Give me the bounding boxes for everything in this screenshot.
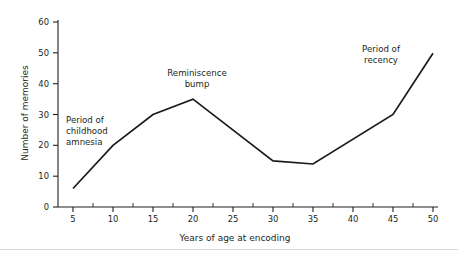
x-tick-label-25: 25 bbox=[228, 214, 239, 224]
annotation-childhood-amnesia-line1: Period of bbox=[66, 115, 105, 125]
annotation-period-of-childhood-amnesia: Period of childhood amnesia bbox=[66, 115, 108, 147]
x-tick-label-20: 20 bbox=[188, 214, 199, 224]
x-tick-label-15: 15 bbox=[148, 214, 159, 224]
annotation-childhood-amnesia-line3: amnesia bbox=[66, 137, 103, 147]
annotation-reminiscence-bump-line2: bump bbox=[185, 79, 210, 89]
x-tick-label-45: 45 bbox=[388, 214, 399, 224]
x-axis-major-ticks bbox=[73, 207, 433, 212]
y-axis-tick-labels: 0 10 20 30 40 50 60 bbox=[38, 17, 49, 212]
x-axis-minor-ticks bbox=[93, 203, 413, 207]
x-axis-title: Years of age at encoding bbox=[179, 233, 291, 243]
annotation-period-of-recency: Period of recency bbox=[362, 44, 401, 65]
annotation-reminiscence-bump: Reminiscence bump bbox=[167, 68, 226, 89]
annotation-recency-line2: recency bbox=[364, 55, 398, 65]
y-axis-ticks bbox=[53, 22, 58, 207]
y-tick-label-40: 40 bbox=[38, 79, 49, 89]
x-tick-label-5: 5 bbox=[70, 214, 75, 224]
y-tick-label-60: 60 bbox=[38, 17, 49, 27]
x-tick-label-30: 30 bbox=[268, 214, 279, 224]
chart-figure: 0 10 20 30 40 50 60 bbox=[0, 0, 458, 256]
y-tick-label-0: 0 bbox=[44, 202, 49, 212]
annotation-childhood-amnesia-line2: childhood bbox=[66, 126, 108, 136]
y-tick-label-50: 50 bbox=[38, 48, 49, 58]
x-tick-label-10: 10 bbox=[108, 214, 119, 224]
x-axis-tick-labels: 5 10 15 20 25 30 35 40 45 50 bbox=[70, 214, 438, 224]
annotation-recency-line1: Period of bbox=[362, 44, 401, 54]
memory-distribution-line-chart: 0 10 20 30 40 50 60 bbox=[0, 0, 458, 256]
y-axis-title: Number of memories bbox=[20, 65, 30, 161]
x-tick-label-40: 40 bbox=[348, 214, 359, 224]
y-tick-label-30: 30 bbox=[38, 110, 49, 120]
y-tick-label-20: 20 bbox=[38, 140, 49, 150]
bottom-divider bbox=[0, 249, 458, 250]
x-tick-label-35: 35 bbox=[308, 214, 319, 224]
annotation-reminiscence-bump-line1: Reminiscence bbox=[167, 68, 226, 78]
x-tick-label-50: 50 bbox=[428, 214, 439, 224]
memories-data-line bbox=[73, 53, 433, 188]
y-tick-label-10: 10 bbox=[38, 171, 49, 181]
